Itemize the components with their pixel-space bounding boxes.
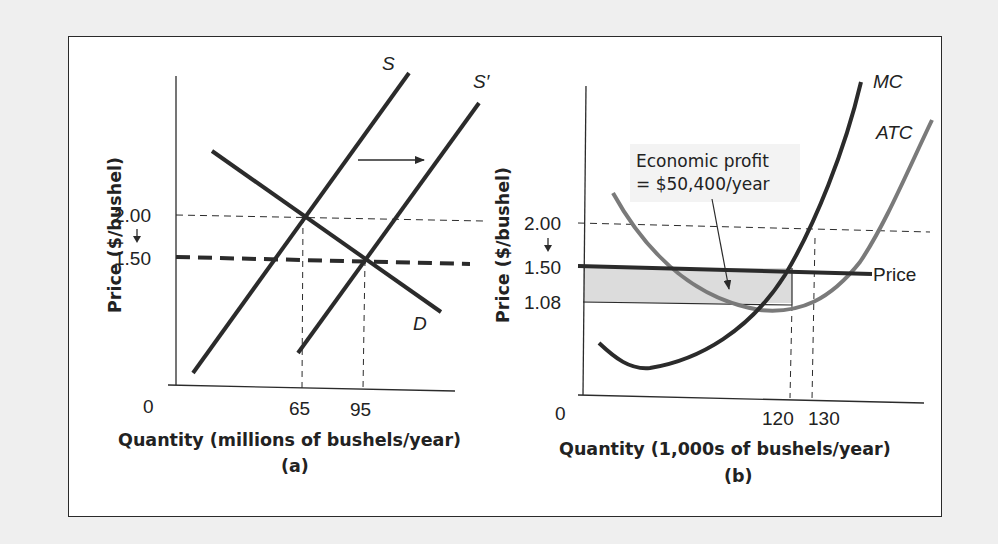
panel-b-annotation-line1: Economic profit bbox=[636, 151, 769, 171]
panel-b-origin: 0 bbox=[555, 403, 566, 424]
panel-a-demand-curve bbox=[212, 151, 441, 312]
panel-a-x-axis bbox=[168, 385, 455, 391]
panel-b: MC ATC Price Economic profit = $50,400/y… bbox=[493, 71, 932, 486]
panel-a-x-axis-title: Quantity (millions of bushels/year) bbox=[118, 430, 461, 450]
panel-b-q120-guide bbox=[790, 305, 792, 398]
panel-b-annotation-line2: = $50,400/year bbox=[636, 174, 770, 194]
panel-b-label-atc: ATC bbox=[875, 122, 913, 143]
panel-a-x-tick-65: 65 bbox=[289, 398, 310, 419]
panel-a-origin: 0 bbox=[143, 396, 154, 417]
panel-a-supply-curve-s bbox=[193, 73, 409, 373]
panel-a-supply-curve-s-prime bbox=[298, 103, 479, 353]
panel-b-price-down-arrow-icon bbox=[544, 238, 552, 252]
panel-a-label-d: D bbox=[413, 313, 427, 334]
panel-a-label-s: S bbox=[382, 53, 395, 74]
panel-b-label-mc: MC bbox=[873, 71, 903, 92]
panel-a: S S′ D 2.00 1.50 0 65 95 Price ($/bushel… bbox=[105, 53, 491, 476]
panel-b-y-tick-200: 2.00 bbox=[524, 213, 561, 234]
panel-a-q65-guide bbox=[302, 217, 303, 388]
panel-a-q95-guide bbox=[363, 260, 365, 390]
panel-a-label-s-prime: S′ bbox=[473, 71, 491, 92]
panel-b-x-axis bbox=[578, 395, 924, 403]
panel-b-y-axis bbox=[583, 86, 586, 395]
panel-a-caption: (a) bbox=[281, 456, 309, 476]
panel-b-y-tick-108: 1.08 bbox=[524, 292, 561, 313]
panel-b-y-tick-150: 1.50 bbox=[524, 257, 561, 278]
panel-a-price-200-guide bbox=[176, 215, 483, 221]
panel-b-caption: (b) bbox=[724, 466, 753, 486]
panel-a-price-150-guide bbox=[176, 257, 470, 264]
panel-b-label-price: Price bbox=[873, 264, 916, 285]
panel-b-x-axis-title: Quantity (1,000s of bushels/year) bbox=[559, 439, 891, 459]
panel-a-x-tick-95: 95 bbox=[350, 399, 371, 420]
panel-b-x-tick-120: 120 bbox=[762, 408, 794, 429]
panel-b-profit-area bbox=[583, 268, 792, 303]
panel-a-price-down-arrow-icon bbox=[133, 229, 141, 243]
panel-b-y-axis-title: Price ($/bushel) bbox=[493, 167, 513, 323]
panel-a-y-axis-title: Price ($/bushel) bbox=[105, 157, 125, 313]
panel-b-x-tick-130: 130 bbox=[808, 408, 840, 429]
panel-b-q130-guide bbox=[812, 238, 815, 400]
figure: S S′ D 2.00 1.50 0 65 95 Price ($/bushel… bbox=[0, 0, 998, 544]
panel-b-mc-curve bbox=[599, 82, 861, 368]
